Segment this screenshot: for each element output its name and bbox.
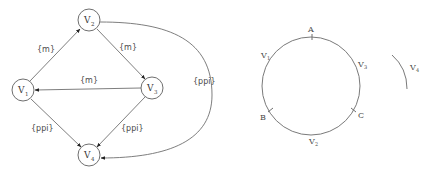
- svg-text:2: 2: [315, 141, 318, 147]
- svg-text:4: 4: [91, 156, 95, 162]
- node-v2: V 2: [78, 9, 100, 31]
- svg-text:V: V: [83, 15, 91, 25]
- ring-circle: [262, 37, 360, 135]
- point-label-c: C: [358, 111, 364, 120]
- arc-label-v3: V 3: [357, 60, 367, 70]
- svg-text:V: V: [260, 51, 267, 60]
- directed-graph: {m} {m} {m} {ppi} {ppi} {ppi} V 1 V 2 V …: [12, 9, 216, 166]
- svg-text:4: 4: [416, 67, 419, 73]
- svg-text:3: 3: [154, 89, 158, 95]
- svg-text:V: V: [357, 60, 364, 69]
- svg-text:V: V: [409, 63, 416, 72]
- edge-label-v1-v4: {ppi}: [31, 124, 54, 133]
- svg-text:2: 2: [91, 21, 95, 27]
- point-label-a: A: [307, 25, 314, 34]
- edge-v2-v3: [97, 29, 145, 79]
- svg-text:3: 3: [364, 64, 367, 70]
- detached-arc-v4: [392, 55, 407, 89]
- edge-v1-v2: [30, 29, 80, 81]
- arc-label-v1: V 1: [260, 51, 270, 61]
- ring-diagram: A B C V 1 V 3 V 2 V 4: [260, 25, 419, 147]
- arc-label-v2: V 2: [308, 137, 318, 147]
- svg-text:V: V: [83, 150, 91, 160]
- svg-text:1: 1: [267, 55, 270, 61]
- edge-v1-v4: [31, 99, 81, 147]
- svg-text:V: V: [308, 137, 315, 146]
- edge-label-v3-v1: {m}: [80, 76, 98, 85]
- edge-label-v3-v4: {ppi}: [121, 124, 144, 133]
- diagram-canvas: {m} {m} {m} {ppi} {ppi} {ppi} V 1 V 2 V …: [0, 0, 429, 174]
- svg-text:V: V: [17, 85, 25, 95]
- edge-label-v2-v3: {m}: [119, 43, 137, 52]
- svg-text:V: V: [146, 83, 154, 93]
- node-v1: V 1: [12, 79, 34, 101]
- svg-text:1: 1: [25, 91, 29, 97]
- arc-label-v4: V 4: [409, 63, 419, 73]
- edge-v3-v4: [97, 97, 145, 147]
- edge-label-v2-v4: {ppi}: [193, 77, 216, 86]
- tick-c: [351, 108, 356, 112]
- point-label-b: B: [260, 113, 266, 122]
- edge-label-v1-v2: {m}: [37, 45, 55, 54]
- node-v3: V 3: [141, 77, 163, 99]
- node-v4: V 4: [78, 144, 100, 166]
- edge-v3-v1: [35, 88, 141, 90]
